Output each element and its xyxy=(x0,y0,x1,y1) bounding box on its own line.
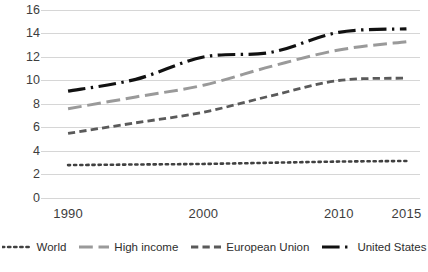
legend-label: United States xyxy=(357,241,426,253)
legend-item[interactable]: United States xyxy=(322,241,426,253)
x-tick-label: 2000 xyxy=(189,207,219,220)
x-tick-label: 1990 xyxy=(53,207,83,220)
y-axis-tick-labels: 0246810121416 xyxy=(0,0,40,232)
y-tick-label: 16 xyxy=(6,4,40,17)
legend-item[interactable]: World xyxy=(2,241,67,253)
series-line-world xyxy=(68,161,406,165)
legend-item[interactable]: European Union xyxy=(191,241,309,253)
chart-legend: WorldHigh incomeEuropean UnionUnited Sta… xyxy=(0,238,428,256)
y-tick-label: 10 xyxy=(6,74,40,87)
legend-label: High income xyxy=(114,241,178,253)
y-tick-label: 14 xyxy=(6,27,40,40)
series-line-united-states xyxy=(68,29,406,91)
y-tick-label: 8 xyxy=(6,98,40,111)
x-tick-label: 2015 xyxy=(392,207,422,220)
y-tick-label: 2 xyxy=(6,168,40,181)
dotted-line-swatch xyxy=(2,242,32,252)
y-tick-label: 12 xyxy=(6,51,40,64)
y-tick-label: 6 xyxy=(6,121,40,134)
series-line-european-union xyxy=(68,78,406,133)
legend-label: European Union xyxy=(226,241,309,253)
chart-canvas xyxy=(0,0,428,232)
x-axis-tick-labels: 1990200020102015 xyxy=(0,203,428,225)
solid-line-swatch xyxy=(322,242,352,252)
series-lines xyxy=(68,29,406,165)
y-tick-label: 4 xyxy=(6,145,40,158)
legend-label: World xyxy=(37,241,67,253)
plot-area: 0246810121416 xyxy=(0,0,428,232)
x-tick-label: 2010 xyxy=(324,207,354,220)
dashed-line-swatch xyxy=(191,242,221,252)
series-line-high-income xyxy=(68,42,406,109)
chart-figure: 0246810121416 1990200020102015 WorldHigh… xyxy=(0,0,428,272)
long-dashed-line-swatch xyxy=(79,242,109,252)
legend-item[interactable]: High income xyxy=(79,241,178,253)
